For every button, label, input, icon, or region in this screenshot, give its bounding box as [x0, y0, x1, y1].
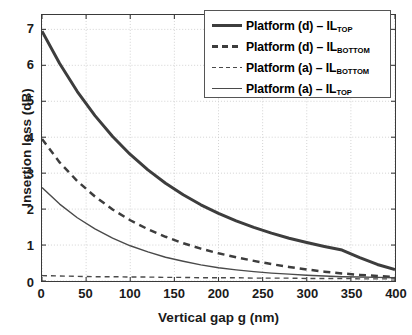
- x-tick-label: 0: [19, 287, 63, 300]
- legend-line-dashed: [212, 45, 242, 47]
- x-tick-label: 100: [108, 287, 152, 300]
- legend-label-subscript: BOTTOM: [336, 67, 369, 76]
- legend-item[interactable]: Platform (d) – ILBOTTOM: [205, 36, 390, 57]
- y-tick-label: 3: [8, 167, 34, 180]
- legend-label: Platform (d) – ILBOTTOM: [246, 40, 370, 54]
- legend-swatch: [212, 41, 242, 53]
- legend-line-dashed: [212, 67, 242, 68]
- legend-swatch: [212, 20, 242, 32]
- legend-label-subscript: TOP: [336, 88, 351, 97]
- legend-line-solid: [212, 88, 242, 89]
- y-tick-label: 4: [8, 131, 34, 144]
- y-tick-label: 5: [8, 94, 34, 107]
- legend-swatch: [212, 83, 242, 95]
- legend-label: Platform (a) – ILTOP: [246, 82, 352, 96]
- legend-label: Platform (d) – ILTOP: [246, 19, 353, 33]
- legend-item[interactable]: Platform (d) – ILTOP: [205, 15, 390, 36]
- legend-line-solid: [212, 24, 242, 27]
- legend-swatch: [212, 62, 242, 74]
- x-tick-label: 50: [63, 287, 107, 300]
- y-tick-label: 1: [8, 239, 34, 252]
- y-tick-label: 2: [8, 203, 34, 216]
- legend: Platform (d) – ILTOPPlatform (d) – ILBOT…: [204, 10, 391, 98]
- x-tick-label: 250: [241, 287, 285, 300]
- chart-figure: Insertion loss (dB) 01234567050100150200…: [0, 0, 412, 335]
- legend-item[interactable]: Platform (a) – ILTOP: [205, 78, 390, 99]
- x-tick-label: 300: [285, 287, 329, 300]
- legend-label-subscript: BOTTOM: [337, 46, 370, 55]
- y-tick-label: 6: [8, 58, 34, 71]
- x-tick-label: 150: [152, 287, 196, 300]
- x-tick-label: 200: [197, 287, 241, 300]
- y-tick-label: 7: [8, 22, 34, 35]
- x-tick-label: 350: [330, 287, 374, 300]
- x-axis-title: Vertical gap g (nm): [41, 310, 396, 325]
- legend-item[interactable]: Platform (a) – ILBOTTOM: [205, 57, 390, 78]
- legend-label: Platform (a) – ILBOTTOM: [246, 61, 369, 75]
- x-tick-label: 400: [374, 287, 412, 300]
- legend-label-subscript: TOP: [337, 25, 352, 34]
